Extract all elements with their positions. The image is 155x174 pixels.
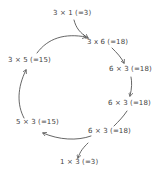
node-1x3: 1 × 3 (=3)	[60, 158, 98, 167]
node-6x3-second: 6 × 3 (=18)	[108, 99, 151, 108]
arrow-n8-to-n2	[37, 36, 86, 53]
node-6x3-first: 6 × 3 (=18)	[109, 65, 152, 74]
node-3x5: 3 × 5 (=15)	[8, 56, 51, 65]
arrow-n7-to-n8	[19, 70, 26, 118]
node-3x6: 3 x 6 (=18)	[87, 38, 128, 47]
node-3x1: 3 × 1 (=3)	[53, 9, 91, 18]
arrow-n5-to-n6	[78, 143, 88, 158]
node-6x3-third: 6 × 3 (=18)	[88, 127, 131, 136]
node-5x3: 5 × 3 (=15)	[16, 118, 59, 127]
arrow-n5-to-n7	[43, 133, 91, 139]
arrow-n2-to-n3	[112, 48, 124, 63]
diagram-canvas: 3 × 1 (=3) 3 x 6 (=18) 6 × 3 (=18) 6 × 3…	[0, 0, 155, 174]
diagram-edges	[0, 0, 155, 174]
arrow-n4-to-n5	[114, 111, 127, 126]
arrow-n3-to-n4	[130, 77, 132, 96]
